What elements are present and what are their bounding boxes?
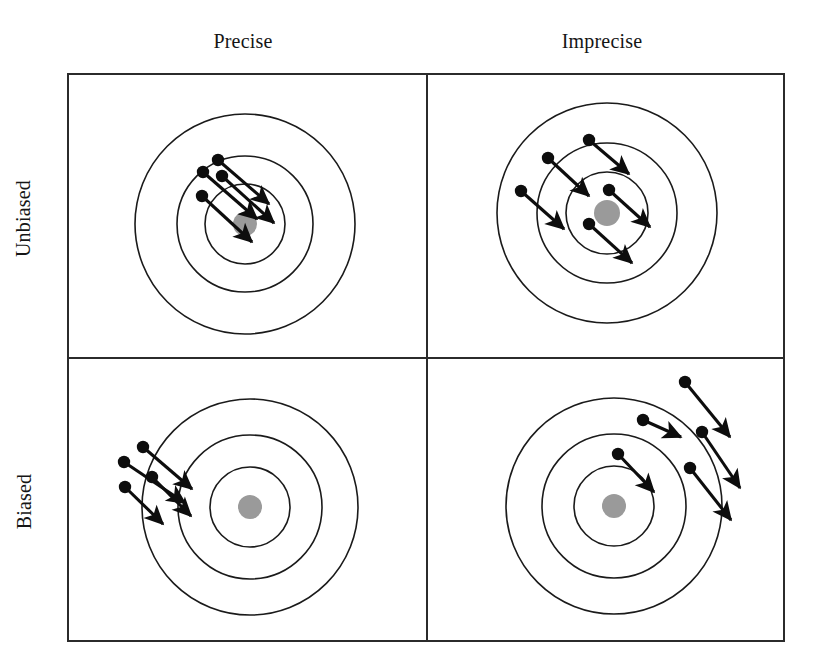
arrow-shaft — [548, 158, 589, 196]
target-biased-imprecise — [506, 376, 740, 614]
arrow-origin-dot — [679, 376, 691, 388]
arrow-origin-dot — [583, 218, 595, 230]
arrow-origin-dot — [216, 170, 228, 182]
arrow-origin-dot — [612, 448, 624, 460]
arrow-origin-dot — [603, 184, 615, 196]
figure-root: Precise Imprecise Unbiased Biased — [0, 0, 813, 667]
shot-arrow — [515, 185, 564, 229]
quadrant-frame — [68, 74, 784, 641]
arrow-origin-dot — [196, 190, 208, 202]
bullseye-diagram-canvas — [0, 0, 813, 667]
shot-arrow — [612, 448, 654, 492]
arrow-shaft — [589, 224, 632, 263]
arrow-origin-dot — [583, 134, 595, 146]
target-biased-precise — [118, 399, 358, 615]
shot-arrow — [583, 134, 629, 174]
bullseye-center — [238, 495, 262, 519]
arrow-shaft — [685, 382, 730, 437]
arrow-origin-dot — [637, 414, 649, 426]
arrow-origin-dot — [118, 456, 130, 468]
arrow-shaft — [618, 454, 654, 492]
arrow-origin-dot — [197, 166, 209, 178]
arrow-origin-dot — [515, 185, 527, 197]
arrow-origin-dot — [146, 471, 158, 483]
arrow-shaft — [643, 420, 681, 437]
bullseye-center — [594, 200, 620, 226]
target-unbiased-imprecise — [497, 103, 717, 323]
arrow-origin-dot — [212, 154, 224, 166]
shot-arrow — [119, 481, 163, 524]
arrow-shaft — [702, 432, 740, 488]
arrow-shaft — [125, 487, 163, 524]
target-unbiased-precise — [135, 114, 355, 334]
bullseye-center — [602, 494, 626, 518]
arrow-shaft — [690, 468, 731, 520]
arrow-shaft — [203, 172, 257, 219]
arrow-origin-dot — [119, 481, 131, 493]
arrow-origin-dot — [542, 152, 554, 164]
arrow-origin-dot — [684, 462, 696, 474]
arrow-origin-dot — [137, 441, 149, 453]
arrow-shaft — [521, 191, 564, 229]
shot-arrow — [684, 462, 731, 520]
arrow-origin-dot — [696, 426, 708, 438]
